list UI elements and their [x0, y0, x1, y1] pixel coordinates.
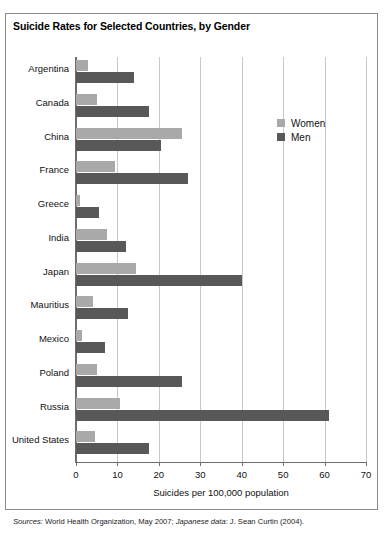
bar-group: Japan: [76, 260, 366, 294]
source-text-1: World Health Organization, May 2007;: [43, 517, 176, 526]
category-label: Poland: [39, 367, 69, 378]
x-tick-label: 20: [154, 469, 165, 480]
bar-men: [76, 106, 149, 117]
x-tick-label: 40: [236, 469, 247, 480]
category-label: Mauritius: [30, 299, 69, 310]
bar-men: [76, 342, 105, 353]
x-tick-label: 70: [361, 469, 372, 480]
bar-group: Mexico: [76, 327, 366, 361]
category-label: Mexico: [39, 333, 69, 344]
category-label: United States: [12, 434, 69, 445]
category-label: Greece: [38, 198, 69, 209]
bar-women: [76, 229, 107, 240]
x-tick-label: 60: [319, 469, 330, 480]
bar-women: [76, 296, 93, 307]
bar-men: [76, 140, 161, 151]
category-label: Russia: [40, 401, 69, 412]
bar-women: [76, 128, 182, 139]
category-label: India: [48, 232, 69, 243]
bar-men: [76, 72, 134, 83]
bar-group: Mauritius: [76, 293, 366, 327]
x-tick-mark: [117, 462, 118, 466]
x-tick-label: 30: [195, 469, 206, 480]
bar-women: [76, 195, 80, 206]
x-tick-mark: [242, 462, 243, 466]
x-tick-label: 10: [112, 469, 123, 480]
legend-label-women: Women: [291, 118, 325, 129]
x-tick-mark: [159, 462, 160, 466]
bar-men: [76, 376, 182, 387]
bar-women: [76, 161, 115, 172]
bar-women: [76, 364, 97, 375]
legend-item-women: Women: [277, 116, 325, 130]
bar-men: [76, 410, 329, 421]
bar-men: [76, 443, 149, 454]
source-prefix: Sources:: [13, 517, 43, 526]
bar-men: [76, 241, 126, 252]
bar-group: Argentina: [76, 57, 366, 91]
source-italic-2: Japanese data: [176, 517, 226, 526]
bar-women: [76, 398, 120, 409]
legend-swatch-men-icon: [277, 133, 285, 141]
x-tick-label: 0: [73, 469, 78, 480]
legend-item-men: Men: [277, 130, 325, 144]
x-axis-title: Suicides per 100,000 population: [76, 487, 366, 498]
bar-women: [76, 94, 97, 105]
bar-men: [76, 207, 99, 218]
chart-figure: Suicide Rates for Selected Countries, by…: [0, 0, 389, 534]
legend-label-men: Men: [291, 132, 310, 143]
bar-men: [76, 173, 188, 184]
source-text-2: : J. Sean Curtin (2004).: [226, 517, 305, 526]
gridline: [366, 57, 367, 462]
bar-group: Russia: [76, 395, 366, 429]
category-label: France: [39, 164, 69, 175]
x-tick-mark: [200, 462, 201, 466]
bar-women: [76, 431, 95, 442]
x-tick-mark: [283, 462, 284, 466]
category-label: Japan: [43, 266, 69, 277]
bar-women: [76, 263, 136, 274]
bar-women: [76, 330, 82, 341]
bar-group: Greece: [76, 192, 366, 226]
category-label: China: [44, 131, 69, 142]
x-tick-mark: [76, 462, 77, 466]
category-label: Canada: [36, 97, 69, 108]
legend-swatch-women-icon: [277, 119, 285, 127]
x-tick-label: 50: [278, 469, 289, 480]
chart-legend: Women Men: [277, 116, 325, 144]
bar-men: [76, 275, 242, 286]
chart-title: Suicide Rates for Selected Countries, by…: [13, 20, 250, 32]
bar-men: [76, 308, 128, 319]
bar-group: Poland: [76, 361, 366, 395]
category-label: Argentina: [28, 63, 69, 74]
bar-group: United States: [76, 428, 366, 462]
x-tick-mark: [325, 462, 326, 466]
bar-women: [76, 60, 88, 71]
x-tick-mark: [366, 462, 367, 466]
source-note: Sources: World Health Organization, May …: [13, 517, 304, 526]
bar-group: France: [76, 158, 366, 192]
bar-group: India: [76, 226, 366, 260]
